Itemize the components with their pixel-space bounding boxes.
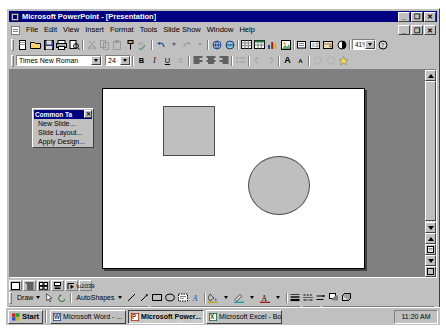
text-box-icon[interactable] [177, 291, 190, 304]
scroll-up-button[interactable] [425, 70, 436, 81]
view-more-button[interactable]: \u2039 [79, 280, 92, 291]
autoshapes-dropdown-arrow[interactable] [118, 296, 122, 299]
cut-icon[interactable] [85, 38, 98, 51]
insert-clipart-icon[interactable] [279, 38, 292, 51]
taskbar-button-word[interactable]: W Microsoft Word - ... [50, 310, 126, 324]
wordart-icon[interactable]: A [190, 291, 203, 304]
decrease-font-size-button[interactable]: A [294, 54, 307, 67]
fill-color-icon[interactable] [207, 291, 220, 304]
menu-item-slide-show[interactable]: Slide Show [160, 25, 204, 35]
menu-item-file[interactable]: File [23, 25, 41, 35]
new-icon[interactable] [16, 38, 29, 51]
document-minimize-button[interactable]: _ [398, 25, 410, 35]
spelling-icon[interactable]: ab [137, 38, 150, 51]
document-restore-button[interactable]: ❐ [411, 25, 423, 35]
zoom-dropdown-arrow[interactable] [365, 40, 375, 49]
rectangle-shape[interactable] [163, 106, 215, 156]
slide-work-area[interactable]: Common Ta ✕ New Slide... Slide Layout...… [9, 69, 437, 278]
line-style-icon[interactable] [289, 291, 302, 304]
previous-slide-button[interactable] [425, 233, 436, 244]
fill-color-dropdown-arrow[interactable] [220, 291, 233, 304]
underline-button[interactable]: U [161, 54, 174, 67]
apply-design-icon[interactable] [322, 38, 335, 51]
menu-item-tools[interactable]: Tools [137, 25, 161, 35]
font-size-dropdown-arrow[interactable] [120, 56, 130, 65]
document-close-button[interactable]: ✕ [424, 25, 436, 35]
minimize-button[interactable]: _ [398, 12, 410, 22]
insert-hyperlink-icon[interactable] [210, 38, 223, 51]
menu-item-window[interactable]: Window [204, 25, 237, 35]
toolbar-grip[interactable] [9, 292, 12, 304]
draw-menu-button[interactable]: Draw [14, 294, 36, 301]
3d-icon[interactable] [341, 291, 354, 304]
format-painter-icon[interactable] [124, 38, 137, 51]
close-button[interactable]: ✕ [424, 12, 436, 22]
slide-canvas[interactable] [102, 88, 365, 269]
move-down-icon[interactable] [324, 54, 337, 67]
align-center-icon[interactable] [204, 54, 217, 67]
menu-item-insert[interactable]: Insert [82, 25, 107, 35]
save-icon[interactable] [42, 38, 55, 51]
toolbar-grip[interactable] [11, 55, 14, 67]
next-slide-button[interactable] [425, 255, 436, 266]
open-icon[interactable] [29, 38, 42, 51]
document-icon[interactable] [11, 26, 20, 35]
align-left-icon[interactable] [191, 54, 204, 67]
office-assistant-icon[interactable]: ? [376, 38, 389, 51]
slide-sorter-view-button[interactable] [37, 280, 50, 291]
scroll-down-button[interactable] [425, 222, 436, 233]
insert-chart-icon[interactable] [266, 38, 279, 51]
common-tasks-toolbar[interactable]: Common Ta ✕ New Slide... Slide Layout...… [32, 108, 94, 148]
redo-dropdown-icon[interactable] [193, 38, 206, 51]
print-preview-icon[interactable] [68, 38, 81, 51]
italic-button[interactable]: I [148, 54, 161, 67]
undo-dropdown-icon[interactable] [167, 38, 180, 51]
oval-icon[interactable] [164, 291, 177, 304]
maximize-button[interactable]: ❐ [411, 12, 423, 22]
scrollbar-thumb[interactable] [425, 81, 436, 221]
slide-navigator-button[interactable] [425, 244, 436, 255]
print-icon[interactable] [55, 38, 68, 51]
outline-view-button[interactable] [23, 280, 36, 291]
font-name-dropdown-arrow[interactable] [91, 56, 101, 65]
shadow-icon[interactable] [328, 291, 341, 304]
toolbar-grip[interactable] [11, 39, 14, 51]
scrollbar-track[interactable] [425, 81, 436, 222]
black-white-view-icon[interactable] [335, 38, 348, 51]
font-size-combo[interactable]: 24 [105, 55, 131, 66]
free-rotate-icon[interactable] [56, 291, 69, 304]
line-icon[interactable] [125, 291, 138, 304]
demote-icon[interactable] [264, 54, 277, 67]
line-color-icon[interactable] [233, 291, 246, 304]
insert-table-icon[interactable] [240, 38, 253, 51]
common-tasks-item-new-slide[interactable]: New Slide... [34, 119, 92, 128]
taskbar-button-powerpoint[interactable]: P Microsoft Power... [128, 310, 204, 324]
undo-icon[interactable] [154, 38, 167, 51]
common-tasks-item-slide-layout[interactable]: Slide Layout... [34, 128, 92, 137]
arrow-icon[interactable] [138, 291, 151, 304]
menu-item-edit[interactable]: Edit [41, 25, 60, 35]
zoom-combo[interactable]: 41% [352, 39, 376, 50]
increase-font-size-button[interactable]: A [281, 54, 294, 67]
move-up-icon[interactable] [311, 54, 324, 67]
expand-button[interactable] [425, 266, 436, 277]
align-right-icon[interactable] [217, 54, 230, 67]
redo-icon[interactable] [180, 38, 193, 51]
arrow-style-icon[interactable] [315, 291, 328, 304]
new-slide-icon[interactable] [296, 38, 309, 51]
start-button[interactable]: Start [8, 310, 43, 324]
select-objects-icon[interactable] [43, 291, 56, 304]
oval-shape[interactable] [248, 156, 310, 215]
web-toolbar-icon[interactable] [223, 38, 236, 51]
font-name-combo[interactable]: Times New Roman [16, 55, 102, 66]
draw-dropdown-arrow[interactable] [36, 296, 40, 299]
rectangle-icon[interactable] [151, 291, 164, 304]
bullets-icon[interactable] [234, 54, 247, 67]
taskbar-clock[interactable]: 11:20 AM [401, 313, 430, 320]
font-color-dropdown-arrow[interactable] [272, 291, 285, 304]
animation-effects-icon[interactable] [337, 54, 350, 67]
menu-item-format[interactable]: Format [107, 25, 137, 35]
common-tasks-close-button[interactable]: ✕ [84, 110, 92, 118]
taskbar-button-excel[interactable]: X Microsoft Excel - Bo... [206, 310, 282, 324]
font-color-icon[interactable]: A [259, 291, 272, 304]
